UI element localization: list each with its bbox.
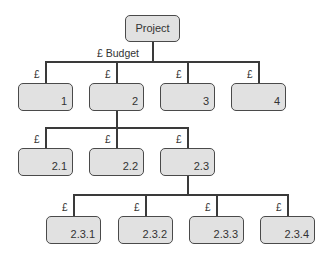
connector-level1-bar bbox=[45, 61, 259, 63]
connector-2-3-3 bbox=[216, 194, 218, 216]
node-label: Project bbox=[126, 16, 179, 41]
connector-2-3-down bbox=[187, 175, 189, 195]
node-2: 2 bbox=[89, 83, 144, 111]
connector-2-down bbox=[116, 110, 118, 128]
connector-1 bbox=[45, 61, 47, 83]
connector-4 bbox=[258, 61, 260, 83]
node-1: 1 bbox=[18, 83, 73, 111]
pound-label: £ bbox=[176, 134, 182, 145]
node-label: 3 bbox=[203, 95, 209, 107]
node-2-3-1: 2.3.1 bbox=[46, 216, 101, 244]
node-project: Project bbox=[125, 15, 180, 42]
node-label: 2.3.2 bbox=[143, 228, 167, 240]
connector-2-3 bbox=[187, 127, 189, 148]
connector-2-3-2 bbox=[145, 194, 147, 216]
connector-root bbox=[152, 42, 154, 62]
node-label: 1 bbox=[61, 95, 67, 107]
node-label: 2.3 bbox=[194, 160, 209, 172]
pound-label: £ bbox=[134, 202, 140, 213]
node-4: 4 bbox=[231, 83, 286, 111]
connector-2-3-1 bbox=[73, 194, 75, 216]
node-2-3: 2.3 bbox=[160, 148, 215, 176]
connector-2-3-4 bbox=[287, 194, 289, 216]
budget-label: £ Budget bbox=[97, 47, 139, 59]
connector-3 bbox=[187, 61, 189, 83]
pound-label: £ bbox=[105, 69, 111, 80]
node-3: 3 bbox=[160, 83, 215, 111]
pound-label: £ bbox=[205, 202, 211, 213]
connector-2 bbox=[116, 61, 118, 83]
pound-label: £ bbox=[34, 134, 40, 145]
node-2-3-2: 2.3.2 bbox=[118, 216, 173, 244]
node-2-1: 2.1 bbox=[18, 148, 73, 176]
pound-label: £ bbox=[176, 69, 182, 80]
connector-2-2 bbox=[116, 127, 118, 148]
node-label: 2.3.1 bbox=[71, 228, 95, 240]
node-label: 2.1 bbox=[52, 160, 67, 172]
pound-label: £ bbox=[247, 69, 253, 80]
node-label: 4 bbox=[274, 95, 280, 107]
pound-label: £ bbox=[276, 202, 282, 213]
pound-label: £ bbox=[105, 134, 111, 145]
connector-2-1 bbox=[45, 127, 47, 148]
node-2-3-4: 2.3.4 bbox=[260, 216, 315, 244]
node-label: 2 bbox=[132, 95, 138, 107]
node-2-2: 2.2 bbox=[89, 148, 144, 176]
connector-level3-bar bbox=[73, 194, 287, 196]
pound-label: £ bbox=[34, 69, 40, 80]
node-label: 2.3.3 bbox=[214, 228, 238, 240]
node-2-3-3: 2.3.3 bbox=[189, 216, 244, 244]
node-label: 2.3.4 bbox=[285, 228, 309, 240]
node-label: 2.2 bbox=[123, 160, 138, 172]
pound-label: £ bbox=[62, 202, 68, 213]
